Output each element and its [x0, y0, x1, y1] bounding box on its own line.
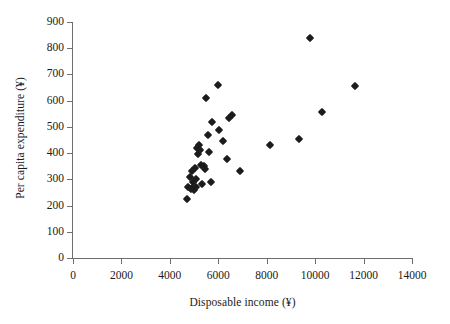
data-point: [306, 33, 314, 41]
y-tick-label: 200: [20, 200, 64, 212]
y-tick-label: 300: [20, 173, 64, 185]
data-point: [183, 195, 191, 203]
y-tick-label: 100: [20, 226, 64, 238]
y-tick: [67, 22, 72, 23]
x-tick-label: 14000: [382, 270, 442, 282]
y-tick: [67, 232, 72, 233]
y-tick: [67, 258, 72, 259]
y-tick-label: 900: [20, 16, 64, 28]
x-tick: [364, 259, 365, 264]
y-tick-label: 800: [20, 42, 64, 54]
y-tick-label: 600: [20, 95, 64, 107]
data-point: [214, 81, 222, 89]
y-tick: [67, 48, 72, 49]
y-tick-label: 500: [20, 121, 64, 133]
data-point: [207, 178, 215, 186]
y-tick: [67, 101, 72, 102]
data-point: [215, 125, 223, 133]
y-tick: [67, 179, 72, 180]
x-tick: [267, 259, 268, 264]
y-tick: [67, 153, 72, 154]
data-point: [202, 94, 210, 102]
plot-area: [73, 22, 412, 258]
data-point: [318, 107, 326, 115]
x-axis-line: [72, 258, 413, 259]
y-tick: [67, 74, 72, 75]
x-tick: [315, 259, 316, 264]
y-tick: [67, 206, 72, 207]
data-point: [351, 82, 359, 90]
data-point: [208, 117, 216, 125]
x-tick: [73, 259, 74, 264]
y-tick: [67, 127, 72, 128]
data-point: [236, 167, 244, 175]
data-point: [266, 140, 274, 148]
x-tick: [121, 259, 122, 264]
data-point: [223, 155, 231, 163]
y-tick-label: 400: [20, 147, 64, 159]
data-point: [219, 136, 227, 144]
data-point: [295, 135, 303, 143]
scatter-chart: Per capita expenditure (¥) Disposable in…: [0, 0, 450, 324]
x-tick: [412, 259, 413, 264]
y-tick-label: 700: [20, 68, 64, 80]
data-point: [205, 148, 213, 156]
data-point: [203, 131, 211, 139]
x-tick: [170, 259, 171, 264]
x-axis-label: Disposable income (¥): [73, 296, 412, 308]
y-tick-label: 0: [20, 252, 64, 264]
x-tick: [218, 259, 219, 264]
